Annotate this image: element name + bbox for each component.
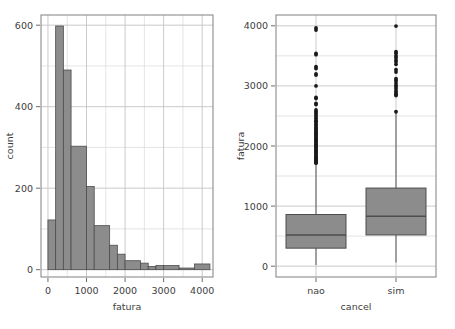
box-iqr <box>286 215 346 249</box>
y-axis-title: count <box>4 132 15 159</box>
y-tick-label: 2000 <box>244 141 268 152</box>
x-tick-label: 1000 <box>74 285 98 296</box>
histogram-bar <box>140 263 148 270</box>
histogram-svg: 010002000300040000200400600faturacount <box>0 0 228 329</box>
histogram-bar <box>94 226 109 270</box>
x-axis-title: cancel <box>341 301 372 312</box>
outlier-point <box>394 110 398 114</box>
x-axis-title: fatura <box>113 301 142 312</box>
outlier-point <box>394 70 398 74</box>
figure-root: 010002000300040000200400600faturacount 0… <box>0 0 455 329</box>
y-tick-label: 4000 <box>244 20 268 31</box>
x-tick-label: 0 <box>45 285 51 296</box>
boxplot-svg: 01000200030004000naosimcancelfatura <box>228 0 455 329</box>
histogram-bar <box>56 26 64 270</box>
histogram-bar <box>48 220 56 270</box>
outlier-point <box>394 24 398 28</box>
histogram-bar <box>148 266 156 269</box>
histogram-bar <box>164 266 179 270</box>
y-tick-label: 1000 <box>244 201 268 212</box>
outlier-point <box>394 94 398 98</box>
histogram-bar <box>125 261 140 270</box>
x-tick-label: 2000 <box>113 285 137 296</box>
outlier-point <box>314 73 318 77</box>
histogram-bar <box>87 187 95 270</box>
x-tick-label: 3000 <box>152 285 176 296</box>
y-tick-label: 0 <box>262 261 268 272</box>
outlier-point <box>314 67 318 71</box>
x-tick-label: 4000 <box>190 285 214 296</box>
x-tick-label: sim <box>388 285 405 296</box>
outlier-point <box>314 103 318 107</box>
histogram-bar <box>194 264 209 270</box>
boxplot-panel: 01000200030004000naosimcancelfatura <box>228 0 455 329</box>
outlier-point <box>314 28 318 32</box>
y-axis-title: fatura <box>235 132 246 161</box>
histogram-bar <box>156 266 164 270</box>
box-iqr <box>366 188 426 235</box>
outlier-point <box>394 62 398 66</box>
histogram-bar <box>179 268 194 270</box>
histogram-bar <box>110 245 118 269</box>
histogram-bar <box>63 70 71 270</box>
outlier-point <box>314 161 318 165</box>
y-tick-label: 600 <box>15 20 33 31</box>
y-tick-label: 400 <box>15 101 33 112</box>
x-tick-label: nao <box>307 285 325 296</box>
y-tick-label: 0 <box>27 264 33 275</box>
outlier-point <box>314 84 318 88</box>
outlier-point <box>314 97 318 101</box>
histogram-bar <box>117 254 125 269</box>
outlier-point <box>314 53 318 57</box>
histogram-bar <box>71 146 86 269</box>
histogram-panel: 010002000300040000200400600faturacount <box>0 0 228 329</box>
y-tick-label: 200 <box>15 183 33 194</box>
y-tick-label: 3000 <box>244 80 268 91</box>
